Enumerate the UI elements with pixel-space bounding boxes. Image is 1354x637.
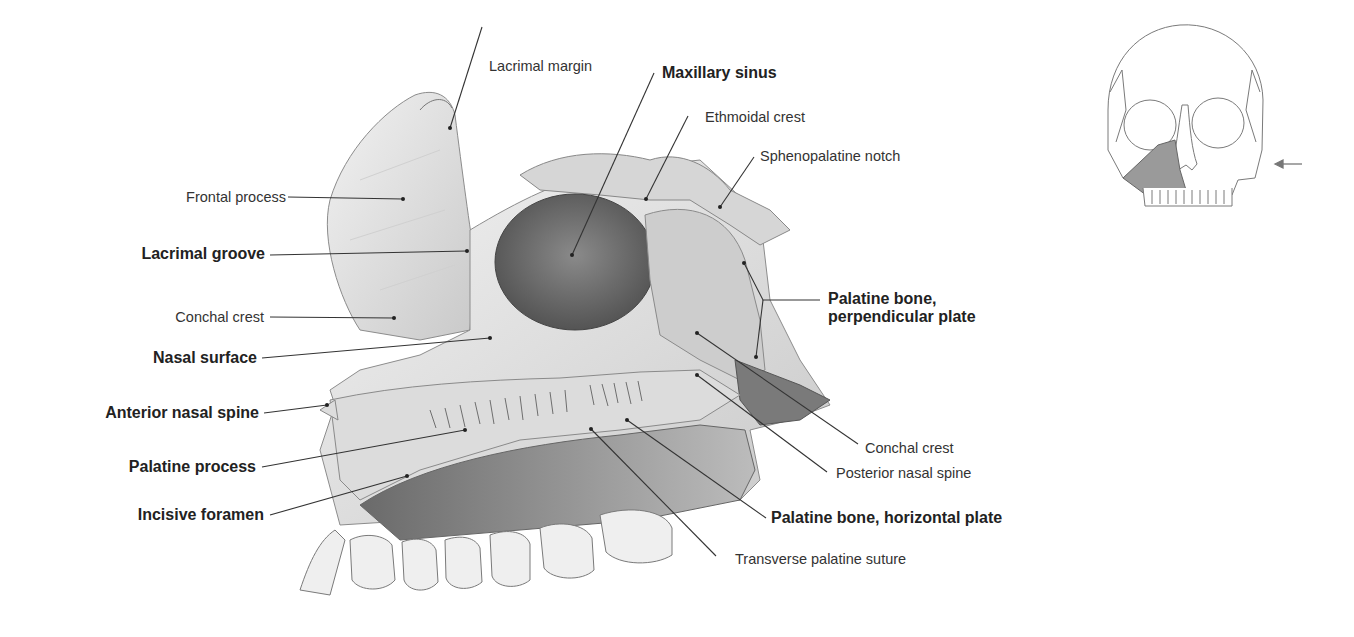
maxillary-sinus-shape [495,194,655,330]
label-lacrimal-groove: Lacrimal groove [80,245,265,263]
label-sphenopalatine-notch: Sphenopalatine notch [760,147,900,165]
label-conchal-crest-left: Conchal crest [120,308,264,326]
label-ethmoidal-crest: Ethmoidal crest [705,108,805,126]
label-posterior-nasal-spine: Posterior nasal spine [836,464,971,482]
label-line-2: perpendicular plate [828,308,1048,326]
label-line-1: Palatine bone, [828,290,1048,308]
label-frontal-process: Frontal process [120,188,286,206]
orientation-skull-inset [1108,25,1263,206]
anatomical-figure: Frontal process Lacrimal groove Conchal … [0,0,1354,637]
label-nasal-surface: Nasal surface [100,349,257,367]
label-palatine-process: Palatine process [80,458,256,476]
label-transverse-palatine-suture: Transverse palatine suture [735,550,906,568]
orientation-arrow-icon [1275,160,1302,168]
label-incisive-foramen: Incisive foramen [80,506,264,524]
label-lacrimal-margin: Lacrimal margin [489,57,592,75]
frontal-process-shape [327,92,475,340]
label-maxillary-sinus: Maxillary sinus [662,64,777,82]
label-palatine-perpendicular-plate: Palatine bone, perpendicular plate [828,290,1048,326]
label-anterior-nasal-spine: Anterior nasal spine [60,404,259,422]
label-palatine-horizontal-plate: Palatine bone, horizontal plate [771,509,1002,527]
label-conchal-crest-right: Conchal crest [865,439,954,457]
